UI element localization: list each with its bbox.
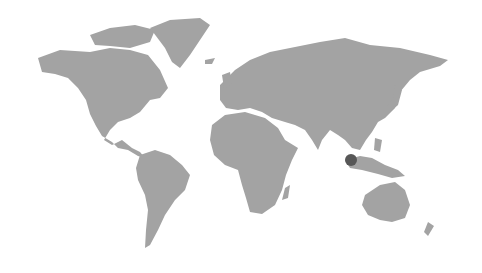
- iceland: [205, 58, 215, 64]
- greenland: [150, 18, 210, 68]
- new-zealand: [424, 222, 434, 236]
- location-marker[interactable]: [345, 154, 357, 166]
- continents: [38, 18, 448, 248]
- arctic-islands: [90, 25, 155, 48]
- madagascar: [282, 185, 290, 200]
- world-map: [0, 0, 482, 273]
- philippines: [374, 138, 382, 152]
- south-america: [136, 150, 190, 248]
- australia: [362, 182, 410, 222]
- north-america: [38, 48, 168, 158]
